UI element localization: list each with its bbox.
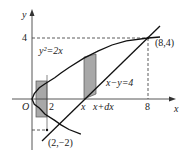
y-axis-arrow-icon	[30, 9, 35, 16]
point-label-8-4: (8,4)	[155, 37, 174, 49]
right-shaded-strip	[84, 54, 96, 99]
point-2-neg2	[46, 129, 48, 131]
parabola-label: y²=2x	[38, 45, 63, 56]
line-label: x−y=4	[105, 77, 133, 88]
origin-label: O	[22, 101, 29, 112]
area-between-curves-diagram: y x O 4 2 x x+dx 8 y²=2x x−y=4 (8,4) (2,…	[0, 0, 184, 157]
point-8-4	[147, 37, 149, 39]
y-axis-label: y	[21, 9, 27, 20]
tick-label-x8: 8	[145, 101, 150, 112]
tick-label-x-plus-dx: x+dx	[92, 101, 114, 112]
tick-label-y4: 4	[22, 32, 27, 43]
point-label-2-neg2: (2,−2)	[48, 137, 73, 149]
line-x-minus-y-eq-4	[42, 26, 160, 141]
tick-label-x2: 2	[49, 101, 54, 112]
tick-label-x: x	[80, 101, 86, 112]
x-axis-arrow-icon	[169, 97, 176, 102]
x-axis-label: x	[173, 103, 179, 114]
